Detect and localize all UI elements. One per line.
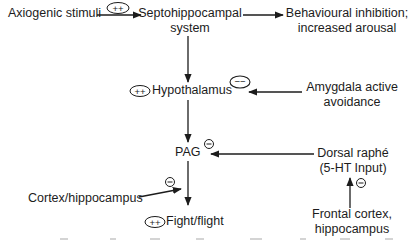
plus-plus-badge-icon: ++ <box>107 3 129 14</box>
node-behavioural-inhibition: Behavioural inhibition; increased arousa… <box>286 6 408 36</box>
svg-text:++: ++ <box>149 217 161 228</box>
node-label: Fight/flight <box>166 214 224 228</box>
svg-text:−−: −− <box>234 76 246 87</box>
node-frontal-cortex-hippocampus: Frontal cortex, hippocampus <box>312 207 392 237</box>
node-label-line2: hippocampus <box>312 222 392 237</box>
node-label: Hypothalamus <box>152 83 232 97</box>
node-axiogenic-stimuli: Axiogenic stimuli <box>8 6 101 21</box>
minus-circle-icon <box>166 178 175 187</box>
node-label: Axiogenic stimuli <box>8 6 101 20</box>
plus-plus-badge-icon: ++ <box>145 217 165 228</box>
node-dorsal-raphe: Dorsal raphé (5-HT Input) <box>317 146 389 176</box>
node-label-line1: Frontal cortex, <box>312 207 392 222</box>
plus-plus-badge-icon: ++ <box>130 86 150 97</box>
node-label-line1: Behavioural inhibition; <box>286 6 408 21</box>
node-label-line2: (5-HT Input) <box>317 161 389 176</box>
svg-text:++: ++ <box>134 86 146 97</box>
node-cortex-hippocampus: Cortex/hippocampus <box>28 191 143 206</box>
anxiety-circuit-diagram: ++ ++ −− <box>0 0 418 243</box>
node-label-line2: increased arousal <box>286 21 408 36</box>
arrow-cortex-to-fight-flight <box>139 189 181 197</box>
node-label-line2: system <box>138 21 242 36</box>
node-label-line1: Amygdala active <box>306 80 398 95</box>
node-hypothalamus: Hypothalamus <box>152 83 232 98</box>
node-label: Cortex/hippocampus <box>28 191 143 205</box>
node-label: PAG <box>175 145 200 159</box>
svg-text:++: ++ <box>112 3 124 14</box>
node-label-line1: Septohippocampal <box>138 6 242 21</box>
node-label-line2: avoidance <box>306 95 398 110</box>
node-septohippocampal-system: Septohippocampal system <box>138 6 242 36</box>
node-fight-flight: Fight/flight <box>166 214 224 229</box>
node-label-line1: Dorsal raphé <box>317 146 389 161</box>
cropped-caption-remnant <box>0 236 418 243</box>
minus-minus-badge-icon: −− <box>230 76 250 88</box>
node-pag: PAG <box>175 145 200 160</box>
node-amygdala-active-avoidance: Amygdala active avoidance <box>306 80 398 110</box>
minus-circle-icon <box>357 179 366 188</box>
minus-circle-icon <box>205 140 214 149</box>
